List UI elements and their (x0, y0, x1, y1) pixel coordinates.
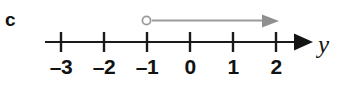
ray-arrowhead-icon (262, 15, 279, 28)
tick-label: –1 (125, 56, 169, 78)
tick-label: –3 (39, 56, 83, 78)
tick-label: 1 (211, 56, 255, 78)
axis-arrow-right-icon (294, 34, 313, 51)
tick-label: –2 (82, 56, 126, 78)
number-line-figure: c –3 –2 –1 0 1 2 y (0, 0, 352, 86)
open-circle-endpoint-icon (142, 16, 150, 24)
tick-label: 2 (254, 56, 298, 78)
tick-label: 0 (168, 56, 212, 78)
axis-variable-label: y (318, 32, 329, 58)
